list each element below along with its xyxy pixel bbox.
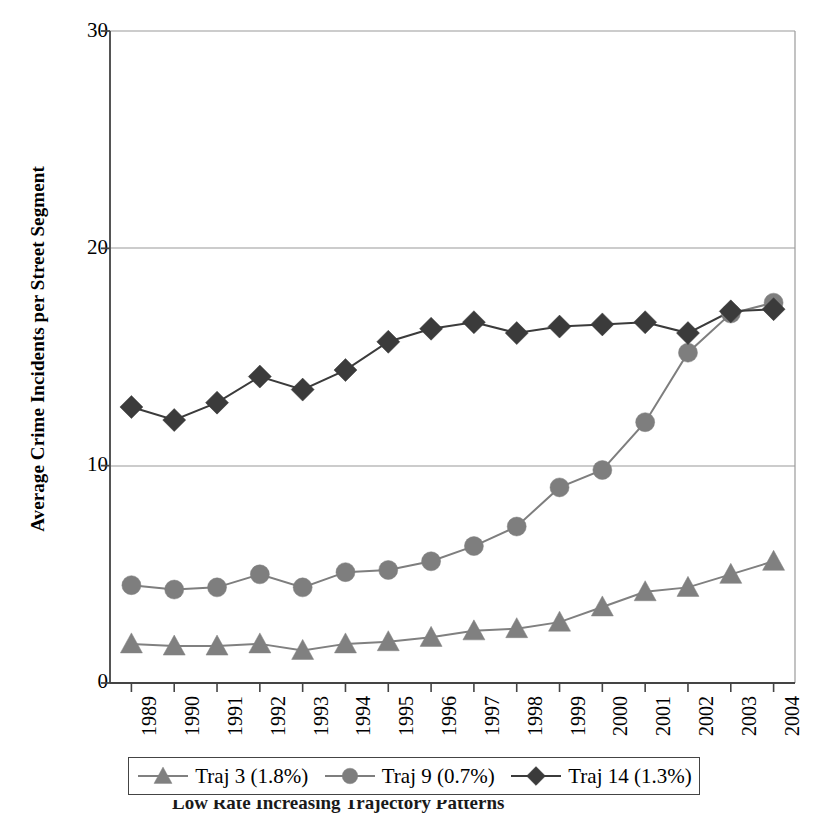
diamond-marker xyxy=(377,330,400,353)
circle-marker xyxy=(336,563,355,582)
x-tick-label-2004: 2004 xyxy=(782,696,802,766)
circle-marker xyxy=(208,578,227,597)
legend-label: Traj 14 (1.3%) xyxy=(568,766,691,787)
diamond-marker xyxy=(719,300,742,323)
x-tick-label-1993: 1993 xyxy=(311,696,331,766)
triangle-marker xyxy=(591,596,613,616)
diamond-marker xyxy=(462,311,485,334)
x-tick-label-1992: 1992 xyxy=(268,696,288,766)
x-tick-label-1997: 1997 xyxy=(482,696,502,766)
diamond-marker xyxy=(505,322,528,345)
legend-entry-1[interactable]: Traj 3 (1.8%) xyxy=(134,765,310,787)
circle-marker xyxy=(464,537,483,556)
circle-marker xyxy=(550,478,569,497)
figure-caption: Low Rate Increasing Trajectory Patterns xyxy=(0,800,819,813)
circle-marker xyxy=(593,461,612,480)
x-tick-label-1991: 1991 xyxy=(225,696,245,766)
circle-marker xyxy=(122,576,141,595)
crime-trajectory-chart: Average Crime Incidents per Street Segme… xyxy=(0,0,819,813)
triangle-marker xyxy=(249,633,271,653)
diamond-marker xyxy=(291,378,314,401)
series-2 xyxy=(131,303,773,590)
circle-marker xyxy=(507,517,526,536)
series-line xyxy=(131,561,773,650)
legend-entry-3[interactable]: Traj 14 (1.3%) xyxy=(507,765,693,787)
x-axis-tick-marks xyxy=(131,683,773,692)
plot-svg xyxy=(110,31,795,683)
x-tick-label-2000: 2000 xyxy=(610,696,630,766)
y-tick-label-10: 10 xyxy=(62,454,108,475)
series-1-markers xyxy=(120,550,784,659)
x-tick-label-2003: 2003 xyxy=(739,696,759,766)
series-1 xyxy=(131,561,773,650)
x-tick-label-2002: 2002 xyxy=(696,696,716,766)
diamond-marker xyxy=(591,313,614,336)
circle-marker xyxy=(636,413,655,432)
y-axis-tick-labels: 30 20 10 0 xyxy=(22,0,108,813)
diamond-marker xyxy=(634,311,657,334)
series-line xyxy=(131,303,773,590)
diamond-marker xyxy=(120,395,143,418)
circle-marker xyxy=(379,560,398,579)
circle-marker xyxy=(678,343,697,362)
diamond-marker xyxy=(163,409,186,432)
x-tick-label-1995: 1995 xyxy=(396,696,416,766)
legend-entry-2[interactable]: Traj 9 (0.7%) xyxy=(321,765,497,787)
x-tick-label-1994: 1994 xyxy=(353,696,373,766)
diamond-marker xyxy=(509,765,563,787)
triangle-marker xyxy=(120,633,142,653)
diamond-marker xyxy=(548,315,571,338)
x-tick-label-1996: 1996 xyxy=(439,696,459,766)
circle-marker xyxy=(250,565,269,584)
triangle-marker xyxy=(677,576,699,596)
data-series-layer xyxy=(120,293,785,659)
y-tick-label-0: 0 xyxy=(62,671,108,692)
figure-caption-text: Low Rate Increasing Trajectory Patterns xyxy=(172,800,504,813)
triangle-marker xyxy=(763,550,785,570)
legend-label: Traj 9 (0.7%) xyxy=(382,766,495,787)
triangle-marker xyxy=(136,765,190,787)
x-tick-label-1990: 1990 xyxy=(182,696,202,766)
plot-area xyxy=(110,31,795,683)
x-tick-label-2001: 2001 xyxy=(653,696,673,766)
x-tick-label-1998: 1998 xyxy=(525,696,545,766)
chart-legend: Traj 3 (1.8%)Traj 9 (0.7%)Traj 14 (1.3%) xyxy=(128,757,700,795)
diamond-marker xyxy=(420,317,443,340)
x-tick-label-1999: 1999 xyxy=(568,696,588,766)
diamond-marker xyxy=(334,359,357,382)
triangle-marker xyxy=(720,563,742,583)
circle-marker xyxy=(422,552,441,571)
diamond-marker xyxy=(527,767,546,786)
diamond-marker xyxy=(206,391,229,414)
circle-marker xyxy=(342,768,358,784)
triangle-marker xyxy=(549,611,571,631)
series-3-markers xyxy=(120,298,785,432)
legend-label: Traj 3 (1.8%) xyxy=(195,766,308,787)
circle-marker xyxy=(323,765,377,787)
diamond-marker xyxy=(248,365,271,388)
circle-marker xyxy=(293,578,312,597)
circle-marker xyxy=(165,580,184,599)
diamond-marker xyxy=(676,322,699,345)
x-tick-label-1989: 1989 xyxy=(139,696,159,766)
